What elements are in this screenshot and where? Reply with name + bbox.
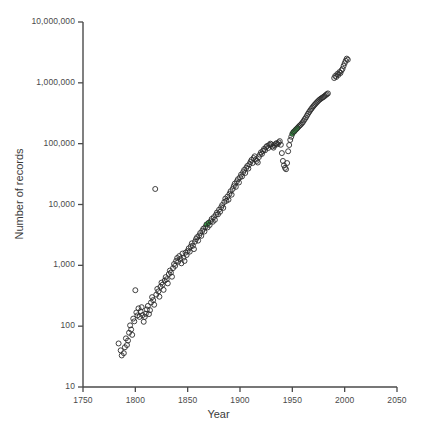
y-axis-tick-label: 100 — [61, 320, 75, 330]
y-axis-title: Number of records — [13, 119, 25, 269]
x-axis-ticks — [83, 387, 397, 392]
data-point — [133, 288, 138, 293]
x-axis-tick-label: 2000 — [320, 395, 370, 405]
data-point — [340, 66, 345, 71]
data-point — [284, 167, 289, 172]
data-point — [161, 287, 166, 292]
x-axis-tick-label: 1900 — [215, 395, 265, 405]
data-points — [116, 56, 350, 358]
data-point — [141, 319, 146, 324]
data-point — [191, 247, 196, 252]
y-axis-tick-label: 100,000 — [44, 138, 75, 148]
data-point — [279, 151, 284, 156]
data-point — [153, 186, 158, 191]
y-axis-ticks — [78, 22, 83, 387]
x-axis-tick-label: 1750 — [58, 395, 108, 405]
x-axis-tick-label: 2050 — [372, 395, 422, 405]
y-axis-tick-label: 10 — [65, 381, 75, 391]
y-axis-tick-label: 1,000,000 — [36, 77, 75, 87]
data-point — [288, 137, 293, 142]
data-point — [287, 143, 292, 148]
x-axis-tick-label: 1850 — [163, 395, 213, 405]
x-axis-title: Year — [0, 408, 437, 420]
scatter-chart: 101001,00010,000100,0001,000,00010,000,0… — [0, 0, 437, 433]
y-axis-tick-label: 10,000 — [48, 199, 75, 209]
data-point — [116, 341, 121, 346]
plot-area — [0, 0, 437, 433]
x-axis-tick-label: 1950 — [267, 395, 317, 405]
y-axis-tick-label: 10,000,000 — [31, 16, 75, 26]
y-axis-tick-label: 1,000 — [53, 259, 75, 269]
data-point — [286, 149, 291, 154]
x-axis-tick-label: 1800 — [110, 395, 160, 405]
